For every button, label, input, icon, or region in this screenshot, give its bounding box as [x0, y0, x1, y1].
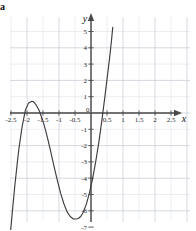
x-tick-label: 0.5 — [103, 116, 112, 124]
x-tick-label: -0.5 — [69, 116, 81, 124]
y-tick-label: -5 — [81, 191, 87, 199]
y-tick-label: 5 — [84, 28, 88, 36]
graph-figure: a -2.5-2-1.5-1-0.500.511.522.5-7-6-5-4-3… — [0, 0, 196, 230]
y-tick-label: -7 — [81, 224, 87, 231]
x-tick-label: 1.5 — [135, 116, 144, 124]
y-tick-label: -3 — [81, 158, 87, 166]
x-axis-label: x — [181, 113, 187, 124]
x-tick-label: -1 — [56, 116, 62, 124]
y-tick-label: 2 — [84, 77, 88, 85]
y-tick-label: 3 — [84, 61, 88, 69]
y-tick-label: -4 — [81, 175, 87, 183]
y-axis-arrowhead — [88, 13, 94, 21]
x-tick-label: 2.5 — [167, 116, 176, 124]
y-axis-label: y — [82, 13, 88, 24]
x-tick-label: 0 — [86, 106, 90, 114]
x-tick-label: -2 — [24, 116, 30, 124]
cubic-curve — [10, 27, 112, 230]
y-tick-label: -2 — [81, 142, 87, 150]
y-tick-label: 1 — [84, 93, 88, 101]
coordinate-plane: -2.5-2-1.5-1-0.500.511.522.5-7-6-5-4-3-2… — [0, 0, 196, 230]
x-tick-label: -2.5 — [5, 116, 17, 124]
y-tick-label: 4 — [84, 44, 88, 52]
x-tick-label: 2 — [153, 116, 157, 124]
x-tick-label: 1 — [121, 116, 125, 124]
y-tick-label: -1 — [81, 126, 87, 134]
